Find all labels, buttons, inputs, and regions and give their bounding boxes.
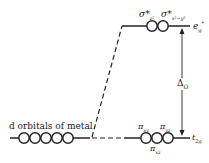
delta-o-label: ΔO bbox=[177, 79, 188, 90]
metal-d-orbitals-label: d orbitals of metal bbox=[9, 122, 93, 131]
t2g-level bbox=[124, 133, 190, 143]
correlation-dashes bbox=[92, 26, 124, 138]
pi-yz-label: πyz bbox=[160, 123, 171, 133]
eg-star-level bbox=[122, 21, 190, 31]
pi-xy-label: πxy bbox=[138, 123, 149, 133]
t2g-label: t2g bbox=[192, 134, 202, 144]
metal-d-level bbox=[10, 133, 90, 143]
sigma-x2-y2-label: σ*x²−y² bbox=[161, 10, 186, 21]
sigma-z2-label: σ*z² bbox=[139, 10, 154, 21]
pi-xz-label: πxz bbox=[150, 145, 161, 155]
eg-star-label: eg* bbox=[193, 21, 204, 33]
